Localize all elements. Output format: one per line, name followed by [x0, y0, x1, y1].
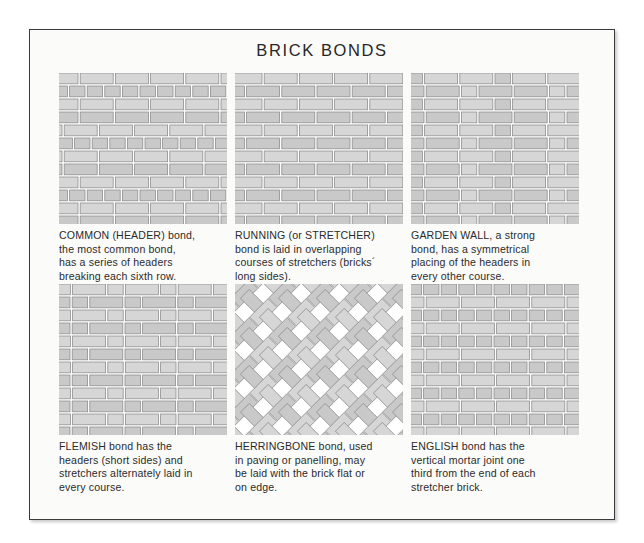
bond-caption: ENGLISH bond has the vertical mortar joi… — [411, 440, 579, 494]
bond-pattern-garden — [411, 73, 579, 224]
bond-pattern-flemish — [59, 284, 227, 435]
bond-cell-garden-wall-bond: GARDEN WALL, a strong bond, has a symmet… — [411, 73, 579, 283]
bond-cell-herringbone-bond: HERRINGBONE bond, used in paving or pane… — [235, 284, 403, 494]
bond-pattern-english — [411, 284, 579, 435]
bond-cell-common-header-bond: COMMON (HEADER) bond, the most common bo… — [59, 73, 227, 283]
bond-row-bottom: FLEMISH bond has the headers (short side… — [59, 284, 587, 495]
bond-cell-flemish-bond: FLEMISH bond has the headers (short side… — [59, 284, 227, 494]
bond-caption: GARDEN WALL, a strong bond, has a symmet… — [411, 229, 579, 283]
bond-caption: RUNNING (or STRETCHER) bond is laid in o… — [235, 229, 403, 283]
bond-caption: COMMON (HEADER) bond, the most common bo… — [59, 229, 227, 283]
page-title: BRICK BONDS — [30, 41, 614, 60]
bond-caption: FLEMISH bond has the headers (short side… — [59, 440, 227, 494]
bond-cell-running-stretcher-bond: RUNNING (or STRETCHER) bond is laid in o… — [235, 73, 403, 283]
bond-row-top: COMMON (HEADER) bond, the most common bo… — [59, 73, 587, 284]
bond-pattern-herringbone — [235, 284, 403, 435]
brick-bonds-card: BRICK BONDS COMMON (HEADER) bond, the mo… — [29, 29, 615, 520]
bond-cell-english-bond: ENGLISH bond has the vertical mortar joi… — [411, 284, 579, 494]
bond-grid: COMMON (HEADER) bond, the most common bo… — [59, 73, 587, 495]
diagram-page: BRICK BONDS COMMON (HEADER) bond, the mo… — [0, 0, 644, 543]
bond-pattern-common — [59, 73, 227, 224]
bond-pattern-running — [235, 73, 403, 224]
bond-caption: HERRINGBONE bond, used in paving or pane… — [235, 440, 403, 494]
